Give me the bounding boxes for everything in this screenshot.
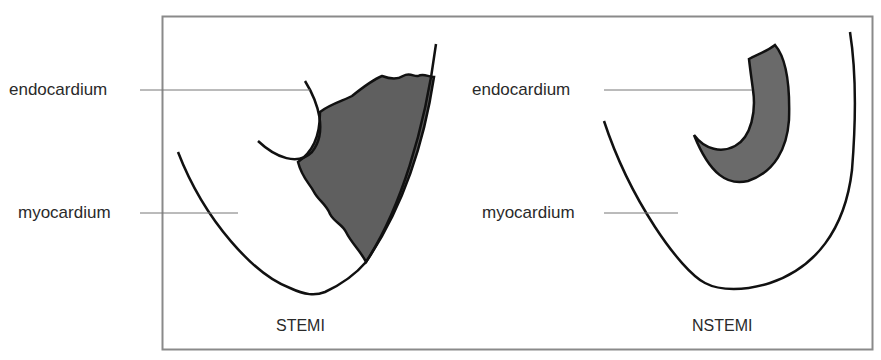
stemi-infarct-region — [298, 74, 434, 262]
nstemi-myocardium-label: myocardium — [482, 204, 575, 221]
nstemi-heart-wall — [604, 32, 855, 289]
stemi-nstemi-diagram: endocardium myocardium STEMI endocardium… — [0, 0, 881, 360]
stemi-myocardium-label: myocardium — [18, 204, 111, 221]
nstemi-caption: NSTEMI — [692, 318, 752, 334]
nstemi-endocardium-label: endocardium — [472, 81, 570, 98]
nstemi-infarct-region — [694, 45, 789, 182]
stemi-caption: STEMI — [276, 318, 325, 334]
stemi-endocardium-label: endocardium — [9, 81, 107, 98]
diagram-graphics — [0, 0, 881, 360]
stemi-heart-wall — [178, 44, 436, 294]
